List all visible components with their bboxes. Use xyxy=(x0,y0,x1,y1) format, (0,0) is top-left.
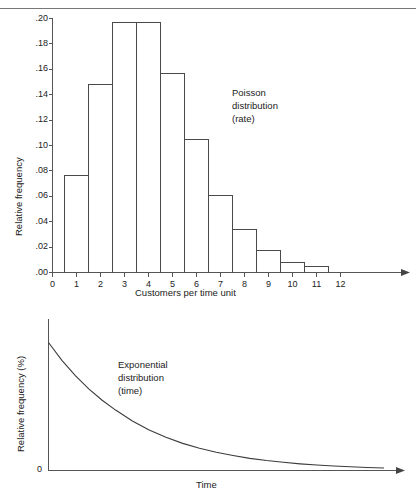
poisson-bar xyxy=(89,85,113,273)
poisson-x-tick-label: 9 xyxy=(259,280,279,289)
poisson-bar xyxy=(137,22,161,272)
poisson-y-tick-label: .16 xyxy=(18,64,48,73)
poisson-y-tick-label: .20 xyxy=(18,14,48,23)
poisson-y-tick-label: .12 xyxy=(18,115,48,124)
poisson-x-tick-label: 8 xyxy=(235,280,255,289)
exponential-x-axis-title: Time xyxy=(196,480,217,490)
exponential-axes xyxy=(49,319,406,475)
poisson-y-tick-label: .10 xyxy=(18,141,48,150)
poisson-bar xyxy=(65,176,89,273)
exponential-y-axis-title: Relative frequency (%) xyxy=(16,356,26,452)
poisson-annotation: Poisson distribution (rate) xyxy=(232,86,278,125)
poisson-y-tick-label: .00 xyxy=(18,268,48,277)
poisson-x-axis-title: Customers per time unit xyxy=(135,288,236,298)
poisson-bar xyxy=(185,139,209,272)
poisson-x-tick-label: 11 xyxy=(307,280,327,289)
poisson-y-tick-label: .18 xyxy=(18,39,48,48)
poisson-x-tick-label: 2 xyxy=(91,280,111,289)
poisson-y-tick-label: .02 xyxy=(18,242,48,251)
poisson-bar xyxy=(161,73,185,272)
poisson-bar xyxy=(281,262,305,272)
poisson-x-tick-label: 12 xyxy=(331,280,351,289)
exponential-chart-canvas xyxy=(0,300,416,499)
exponential-y-tick-label: 0 xyxy=(24,465,42,474)
poisson-x-tick-label: 3 xyxy=(115,280,135,289)
poisson-bar xyxy=(233,229,257,272)
exponential-curve-figure: 0 Relative frequency (%) Time Exponentia… xyxy=(0,300,416,499)
figure-page: .20.18.16.14.12.10.08.06.04.02.00 012345… xyxy=(0,0,416,499)
poisson-y-axis-title: Relative frequency xyxy=(14,157,24,236)
poisson-bar xyxy=(209,195,233,272)
poisson-x-tick-label: 0 xyxy=(43,280,63,289)
poisson-chart-canvas xyxy=(0,0,416,300)
poisson-x-tick-label: 10 xyxy=(283,280,303,289)
poisson-x-axis-arrowhead xyxy=(401,269,410,276)
exponential-annotation: Exponential distribution (time) xyxy=(118,358,168,397)
poisson-bar xyxy=(113,22,137,272)
poisson-bar xyxy=(305,266,329,272)
exponential-x-axis-arrowhead xyxy=(396,467,405,474)
poisson-y-tick-label: .14 xyxy=(18,90,48,99)
exponential-decay-curve xyxy=(49,343,385,468)
poisson-x-tick-label: 1 xyxy=(67,280,87,289)
exponential-curve xyxy=(49,343,385,468)
poisson-axes xyxy=(49,19,411,277)
poisson-bar xyxy=(257,251,281,273)
poisson-bars xyxy=(65,22,329,272)
poisson-histogram-figure: .20.18.16.14.12.10.08.06.04.02.00 012345… xyxy=(0,0,416,300)
